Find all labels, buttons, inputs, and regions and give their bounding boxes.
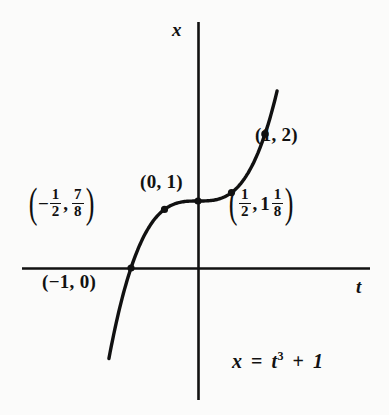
paren-open: ( (229, 186, 238, 220)
paren-close: ) (285, 186, 294, 220)
paren-close: ) (85, 186, 94, 220)
marker-point-0-1 (194, 197, 201, 204)
whole-part: 1 (260, 194, 270, 213)
fraction-one-half: 1 2 (239, 187, 251, 219)
point-label-m1-0: (−1, 0) (42, 272, 96, 291)
equation-lhs: x (232, 350, 243, 372)
comma: , (63, 194, 68, 213)
t-axis-label: t (356, 277, 361, 296)
point-label-minus-half: ( − 1 2 , 7 8 ) (28, 186, 95, 220)
comma: , (253, 194, 258, 213)
marker-point-m1-0 (127, 264, 134, 271)
fraction-one-eighth: 1 8 (272, 187, 284, 219)
point-label-plus-half: ( 1 2 , 1 1 8 ) (228, 186, 294, 220)
cubic-curve (109, 91, 277, 359)
equation-caption: x = t3 + 1 (232, 350, 323, 371)
equals-sign: = (251, 350, 263, 372)
equation-exponent: 3 (277, 349, 284, 363)
plus-sign: + (292, 350, 304, 372)
marker-point-mhalf (161, 206, 168, 213)
equation-constant: 1 (313, 350, 324, 372)
point-label-0-1: (0, 1) (140, 172, 183, 191)
point-label-1-2: (1, 2) (255, 125, 298, 144)
cubic-function-figure: x t (1, 2) (0, 1) (−1, 0) ( − 1 2 , 7 8 … (0, 0, 389, 415)
x-axis-label: x (172, 20, 182, 39)
fraction-seven-eighths: 7 8 (72, 187, 84, 219)
paren-open: ( (29, 186, 38, 220)
fraction-one-half: 1 2 (50, 187, 62, 219)
minus-sign: − (38, 194, 49, 213)
